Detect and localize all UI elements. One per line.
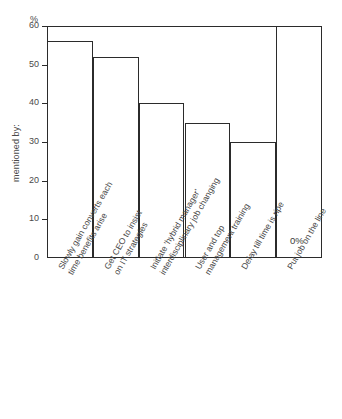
y-tick-label: 40 [29,97,39,107]
bar-chart: mentioned by: % 0102030405060 0% Slowly … [0,0,342,419]
y-tick-label: 20 [29,175,39,185]
column-separator [276,26,277,258]
y-axis-title: mentioned by: [11,93,21,213]
y-tick-label: 60 [29,20,39,30]
y-tick-label: 50 [29,59,39,69]
y-tick-label: 30 [29,136,39,146]
y-tick-label: 0 [34,252,39,262]
y-tick-label: 10 [29,213,39,223]
